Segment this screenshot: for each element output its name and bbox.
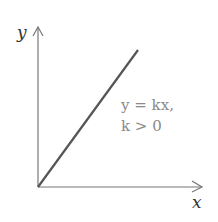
y-axis-label: y xyxy=(17,22,27,42)
x-axis-label: x xyxy=(192,192,202,212)
equation-label: y = kx, xyxy=(121,96,174,115)
graph-canvas xyxy=(0,0,218,222)
condition-label: k > 0 xyxy=(121,117,162,136)
